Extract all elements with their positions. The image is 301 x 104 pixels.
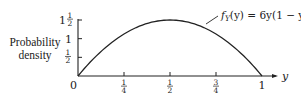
x-axis-arrow-icon: [272, 74, 278, 78]
svg-text:1: 1: [59, 14, 66, 27]
x-tick-1: 1: [259, 79, 266, 92]
y-ticks: 121112: [59, 11, 82, 66]
fraction-denominator: 4: [214, 86, 219, 95]
x-tick-0.5: 12: [167, 72, 173, 95]
density-curve: [78, 20, 262, 76]
y-tick-1: 1: [65, 33, 82, 46]
fraction-denominator: 2: [68, 19, 73, 28]
fraction-denominator: 2: [66, 56, 71, 65]
x-tick-0.25: 14: [121, 72, 127, 95]
y-tick-0.5: 12: [65, 48, 82, 65]
function-annotation: fY(y) = 6y(1 − y): [220, 9, 301, 23]
fraction-denominator: 2: [168, 86, 173, 95]
y-tick-1.5: 112: [59, 11, 73, 28]
origin-label: 0: [70, 79, 77, 92]
annotation-leader-line: [206, 16, 218, 24]
fraction-denominator: 4: [122, 86, 127, 95]
svg-text:1: 1: [259, 79, 266, 92]
svg-text:1: 1: [65, 33, 72, 46]
x-ticks: 1412341: [121, 72, 266, 95]
x-tick-0.75: 34: [213, 72, 219, 95]
density-chart: 121112 1412341 0 y fY(y) = 6y(1 − y): [0, 0, 301, 104]
x-axis-variable-label: y: [281, 70, 289, 83]
